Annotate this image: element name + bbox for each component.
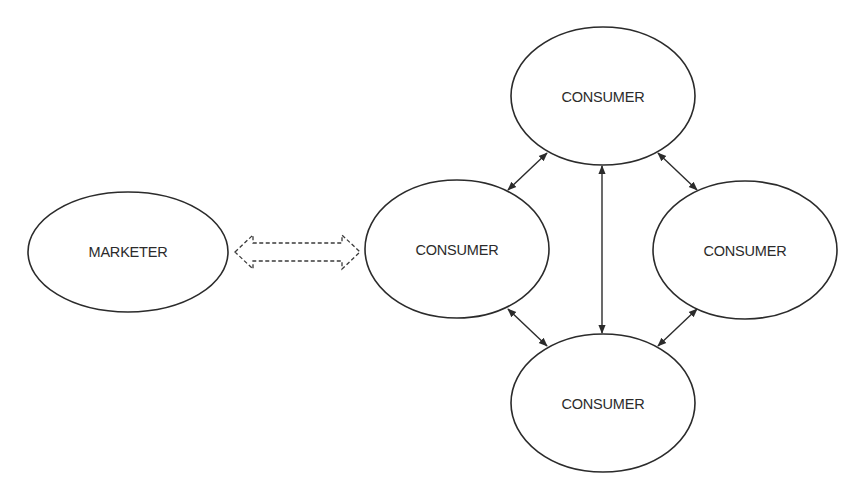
consumer-node-top: CONSUMER (511, 27, 695, 165)
consumer-left-label: CONSUMER (416, 242, 499, 258)
consumer-top-label: CONSUMER (562, 89, 645, 105)
marketer-node: MARKETER (28, 192, 228, 312)
marketer-label: MARKETER (89, 244, 168, 260)
word-of-mouth-diagram: MARKETER CONSUMER CONSUMER CONSUMER CONS… (0, 0, 865, 497)
consumer-node-left: CONSUMER (365, 180, 549, 318)
consumer-node-right: CONSUMER (653, 181, 837, 319)
edge-top-left (508, 153, 547, 190)
dashed-double-arrow-icon (235, 235, 360, 269)
consumer-node-bottom: CONSUMER (511, 334, 695, 472)
consumer-right-label: CONSUMER (704, 243, 787, 259)
edge-top-right (658, 153, 697, 190)
consumer-bottom-label: CONSUMER (562, 396, 645, 412)
edge-left-bottom (508, 309, 547, 346)
edge-right-bottom (658, 309, 697, 346)
